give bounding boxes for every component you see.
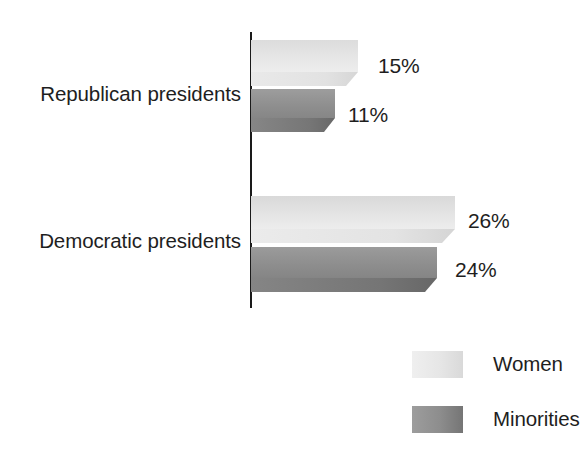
legend-item-women: Women xyxy=(412,351,563,378)
bar-shape-democratic-minorities xyxy=(251,247,437,292)
bar-shape-republican-minorities xyxy=(251,89,335,132)
bar-republican-women xyxy=(251,40,358,86)
value-label-democratic-minorities: 24% xyxy=(455,259,496,280)
legend-item-minorities: Minorities xyxy=(412,406,580,433)
category-label-republican-presidents: Republican presidents xyxy=(40,84,241,105)
bar-democratic-minorities xyxy=(251,247,437,292)
chart-legend: Women Minorities xyxy=(412,351,572,433)
legend-label-women: Women xyxy=(493,354,563,375)
bar-shape-democratic-women xyxy=(251,196,455,243)
value-label-republican-women: 15% xyxy=(378,55,419,76)
bar-democratic-women xyxy=(251,196,455,243)
value-label-republican-minorities: 11% xyxy=(348,104,388,125)
bar-shape-republican-women xyxy=(251,40,358,86)
legend-swatch-women xyxy=(412,351,463,378)
bar-chart: Republican presidents 1 xyxy=(0,0,581,457)
category-label-democratic-presidents: Democratic presidents xyxy=(39,231,241,252)
legend-swatch-minorities xyxy=(412,406,463,433)
legend-label-minorities: Minorities xyxy=(493,409,580,430)
value-label-democratic-women: 26% xyxy=(468,210,509,231)
bar-republican-minorities xyxy=(251,89,335,132)
